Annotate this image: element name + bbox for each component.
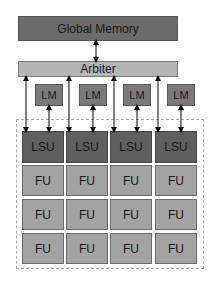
fu-label: FU: [79, 208, 95, 222]
local-memory-block: LM: [79, 84, 107, 106]
local-memory-label: LM: [129, 89, 144, 101]
lsu-block: LSU: [66, 131, 108, 163]
fu-label: FU: [168, 208, 184, 222]
fu-block: FU: [66, 233, 108, 264]
local-memory-label: LM: [41, 89, 56, 101]
lsu-block: LSU: [155, 131, 197, 163]
fu-label: FU: [79, 174, 95, 188]
fu-label: FU: [35, 174, 51, 188]
fu-block: FU: [66, 199, 108, 230]
fu-label: FU: [168, 242, 184, 256]
fu-block: FU: [66, 165, 108, 196]
lsu-label: LSU: [164, 140, 187, 154]
fu-label: FU: [35, 208, 51, 222]
fu-block: FU: [22, 165, 64, 196]
local-memory-label: LM: [85, 89, 100, 101]
fu-label: FU: [35, 242, 51, 256]
fu-label: FU: [168, 174, 184, 188]
fu-label: FU: [123, 208, 139, 222]
fu-block: FU: [22, 199, 64, 230]
fu-label: FU: [79, 242, 95, 256]
fu-block: FU: [22, 233, 64, 264]
local-memory-block: LM: [167, 84, 195, 106]
fu-block: FU: [155, 233, 197, 264]
global-memory-label: Global Memory: [57, 22, 138, 36]
fu-block: FU: [155, 199, 197, 230]
arbiter-block: Arbiter: [18, 61, 178, 77]
lsu-block: LSU: [22, 131, 64, 163]
fu-label: FU: [123, 174, 139, 188]
lsu-label: LSU: [75, 140, 98, 154]
fu-block: FU: [110, 199, 152, 230]
lsu-block: LSU: [110, 131, 152, 163]
fu-block: FU: [155, 165, 197, 196]
global-memory-block: Global Memory: [18, 16, 178, 41]
fu-block: FU: [110, 233, 152, 264]
fu-label: FU: [123, 242, 139, 256]
local-memory-block: LM: [35, 84, 63, 106]
local-memory-block: LM: [123, 84, 151, 106]
lsu-label: LSU: [119, 140, 142, 154]
fu-block: FU: [110, 165, 152, 196]
arbiter-label: Arbiter: [80, 62, 115, 76]
local-memory-label: LM: [173, 89, 188, 101]
lsu-label: LSU: [31, 140, 54, 154]
